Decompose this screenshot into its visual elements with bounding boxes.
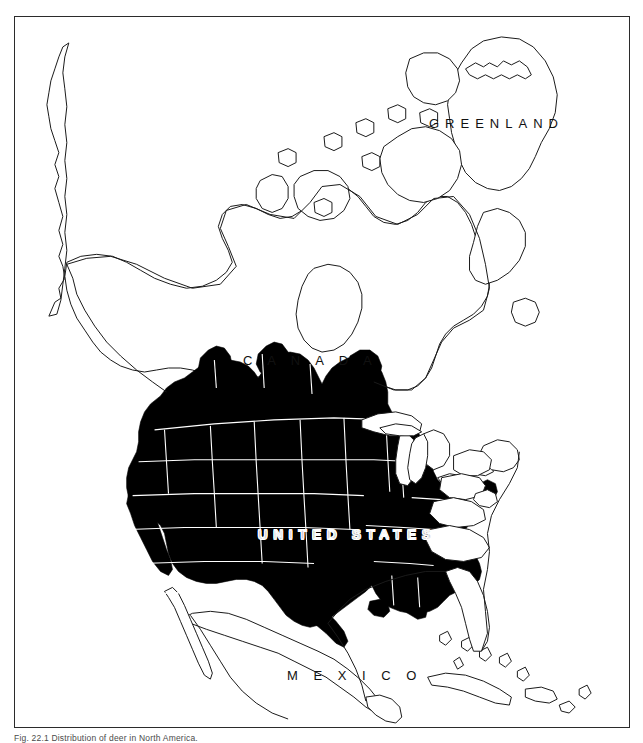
region-newfoundland-island (511, 298, 539, 326)
region-baffin-island (380, 127, 462, 203)
region-greenland (448, 37, 558, 191)
region-banks-island (256, 175, 288, 213)
figure-frame: GREENLAND C A N A D A UNITED STATES M E … (14, 16, 630, 728)
region-yucatan (366, 695, 402, 723)
north-america-distribution-map (15, 17, 629, 727)
region-caribbean-small-islands (440, 621, 592, 713)
figure-caption: Fig. 22.1 Distribution of deer in North … (14, 733, 624, 743)
figure-container: GREENLAND C A N A D A UNITED STATES M E … (0, 0, 643, 743)
region-ellesmere-island (406, 53, 460, 105)
region-cuba (428, 673, 512, 705)
region-hispaniola (525, 687, 557, 703)
map-eastern-seaboard-states (426, 440, 520, 651)
region-new-york (454, 450, 492, 476)
region-baja-california (165, 587, 213, 679)
region-labrador-newfoundland (470, 208, 526, 284)
